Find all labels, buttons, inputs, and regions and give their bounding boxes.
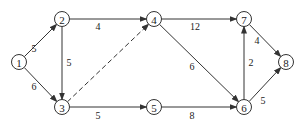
- node-label: 5: [151, 102, 157, 114]
- edge-1-3: [24, 67, 57, 101]
- edge-weight-label: 5: [32, 43, 37, 54]
- edge-weight-label: 6: [32, 81, 37, 92]
- node-label: 4: [151, 14, 157, 26]
- edge-weight-label: 4: [255, 35, 260, 46]
- node-label: 7: [241, 14, 247, 26]
- node-label: 6: [241, 102, 247, 114]
- node-3: 3: [55, 100, 70, 115]
- edge-weight-label: 5: [96, 110, 101, 121]
- edge-weight-label: 8: [190, 110, 195, 121]
- edge-weight-label: 2: [249, 57, 254, 68]
- node-7: 7: [237, 12, 252, 27]
- node-label: 3: [59, 102, 65, 114]
- edge-weight-label: 6: [190, 61, 195, 72]
- node-2: 2: [55, 12, 70, 27]
- node-label: 2: [59, 14, 65, 26]
- node-8: 8: [279, 55, 294, 70]
- node-4: 4: [147, 12, 162, 27]
- node-5: 5: [147, 100, 162, 115]
- edges-layer: [24, 19, 281, 107]
- edge-3-4-dummy: [67, 24, 148, 102]
- edge-weight-label: 5: [261, 95, 266, 106]
- network-diagram: 565451268245 12345678: [0, 0, 302, 127]
- node-label: 8: [283, 57, 289, 69]
- edge-4-6: [159, 24, 238, 102]
- node-6: 6: [237, 100, 252, 115]
- node-1: 1: [12, 55, 27, 70]
- edge-weight-label: 12: [190, 21, 200, 32]
- edge-weight-label: 4: [96, 21, 101, 32]
- edge-1-2: [24, 24, 56, 56]
- edge-weight-label: 5: [67, 57, 72, 68]
- node-label: 1: [16, 57, 22, 69]
